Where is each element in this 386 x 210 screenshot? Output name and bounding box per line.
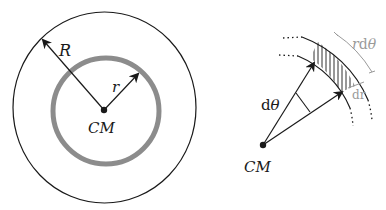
center-of-mass-label-right: CM (244, 158, 271, 176)
inner-arc-dotted-start (279, 55, 298, 56)
angle-marker (296, 93, 310, 112)
outer-arc-dotted-end (368, 100, 372, 120)
center-of-mass-dot-right (260, 142, 266, 148)
thickness-label: dr (352, 88, 366, 102)
angle-label: dθ (261, 96, 280, 114)
arc-length-bracket-tick-start (334, 32, 338, 36)
center-of-mass-label: CM (88, 119, 115, 137)
right-figure: dθ CM rdθ dr (244, 30, 377, 176)
diagram-canvas: R r CM (0, 0, 386, 210)
left-figure: R r CM (13, 12, 196, 203)
hatched-area-element (314, 30, 354, 100)
inner-radius-label: r (112, 78, 120, 96)
outer-arc-dotted-start (283, 37, 302, 38)
arc-length-label: rdθ (352, 36, 377, 52)
inner-radius-arrow (104, 74, 138, 110)
outer-radius-label: R (58, 41, 71, 60)
center-of-mass-dot (101, 107, 107, 113)
inner-arc-dotted-end (350, 108, 353, 126)
